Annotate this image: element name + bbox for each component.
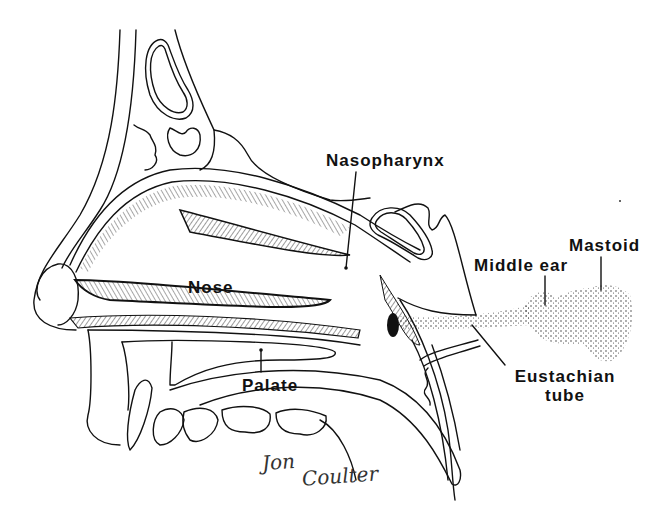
clivus-base bbox=[398, 298, 476, 315]
artist-signature-first: Jon bbox=[261, 449, 296, 475]
ethmoid-sinus bbox=[168, 128, 201, 156]
tube-cartilage-2 bbox=[424, 346, 480, 366]
label-eustachian-line2: tube bbox=[508, 387, 622, 404]
label-mastoid: Mastoid bbox=[569, 237, 640, 254]
anatomy-illustration bbox=[0, 0, 669, 514]
nasal-floor-mucosa bbox=[70, 315, 360, 338]
incisor bbox=[128, 380, 152, 450]
label-nasopharynx: Nasopharynx bbox=[326, 152, 445, 169]
leader-dot-nasopharynx bbox=[344, 266, 348, 270]
label-nose: Nose bbox=[188, 279, 234, 296]
bone-suture bbox=[134, 125, 157, 170]
skull-base bbox=[175, 30, 214, 170]
palate-plate bbox=[122, 341, 335, 386]
leader-eustachian bbox=[472, 325, 505, 365]
maxilla-front bbox=[122, 342, 129, 410]
adenoid-folds bbox=[424, 368, 430, 405]
tooth-1 bbox=[153, 409, 184, 445]
label-eustachian-line1: Eustachian bbox=[508, 368, 622, 385]
nostril-ala bbox=[37, 264, 78, 325]
label-eustachian-tube: Eustachian tube bbox=[508, 368, 622, 404]
nasopharynx-wall-shade bbox=[380, 275, 420, 345]
tooth-2 bbox=[183, 408, 218, 441]
label-palate: Palate bbox=[242, 377, 298, 394]
tooth-4 bbox=[276, 409, 326, 435]
stray-dot bbox=[619, 200, 621, 202]
frontal-sinus-outer bbox=[146, 40, 193, 119]
upper-lip bbox=[87, 330, 120, 445]
middle-ear-stipple bbox=[525, 285, 632, 361]
eustachian-tube-stipple bbox=[395, 305, 530, 330]
tooth-3 bbox=[222, 407, 270, 433]
label-middle-ear: Middle ear bbox=[474, 257, 568, 274]
leader-dot-palate bbox=[259, 348, 263, 352]
